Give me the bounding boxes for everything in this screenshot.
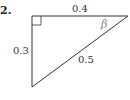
side-label-hypotenuse: 0.5 <box>78 54 94 65</box>
triangle-diagram: 2. 0.4 0.3 0.5 β <box>0 0 130 100</box>
right-angle-marker <box>32 16 41 25</box>
side-label-top: 0.4 <box>72 3 88 14</box>
right-triangle <box>32 16 128 87</box>
problem-number: 2. <box>0 4 11 17</box>
angle-label-beta: β <box>100 18 107 31</box>
side-label-left: 0.3 <box>13 45 29 56</box>
